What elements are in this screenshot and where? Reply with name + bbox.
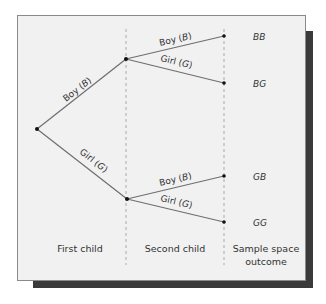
node-gg — [222, 220, 226, 224]
label-lower-boy: Boy (B) — [158, 171, 192, 188]
node-girl — [125, 197, 129, 201]
label-upper-boy: Boy (B) — [158, 31, 192, 48]
outcome-bg: BG — [253, 79, 266, 89]
node-root — [35, 127, 39, 131]
outcome-bb: BB — [253, 32, 265, 42]
label-first-boy: Boy (B) — [61, 75, 93, 103]
column-outcome-line1: Sample space — [233, 243, 300, 254]
node-gb — [222, 174, 226, 178]
label-first-girl: Girl (G) — [78, 147, 110, 175]
column-outcome-line2: outcome — [245, 256, 287, 267]
probability-tree: Boy (B) Girl (G) Boy (B) Girl (G) Boy (B… — [0, 0, 326, 304]
node-bg — [222, 81, 226, 85]
column-first-child: First child — [57, 243, 103, 254]
outcome-gb: GB — [253, 172, 266, 182]
label-upper-girl: Girl (G) — [160, 53, 194, 70]
branch-first-boy — [37, 59, 126, 129]
node-boy — [124, 57, 128, 61]
node-bb — [222, 34, 226, 38]
outcome-gg: GG — [253, 218, 267, 228]
column-second-child: Second child — [145, 243, 206, 254]
branch-first-girl — [37, 129, 127, 199]
